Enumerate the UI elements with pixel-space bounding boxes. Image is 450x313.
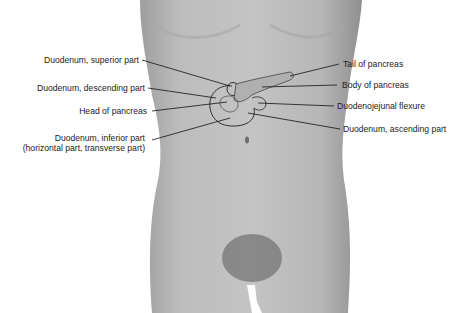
label-duodenum-ascending: Duodenum, ascending part	[343, 124, 446, 134]
lower-shading	[222, 234, 282, 282]
label-head-of-pancreas: Head of pancreas	[79, 106, 147, 116]
label-duodenum-descending: Duodenum, descending part	[37, 83, 145, 93]
label-duodenum-inferior-alt: (horizontal part, transverse part)	[23, 143, 145, 153]
navel	[245, 137, 249, 144]
label-body-of-pancreas: Body of pancreas	[342, 80, 409, 90]
label-duodenojejunal-flexure: Duodenojejunal flexure	[337, 101, 425, 111]
label-duodenum-inferior: Duodenum, inferior part	[55, 133, 145, 143]
label-tail-of-pancreas: Tail of pancreas	[343, 59, 403, 69]
label-duodenum-superior: Duodenum, superior part	[44, 55, 139, 65]
anatomy-figure	[0, 0, 450, 313]
